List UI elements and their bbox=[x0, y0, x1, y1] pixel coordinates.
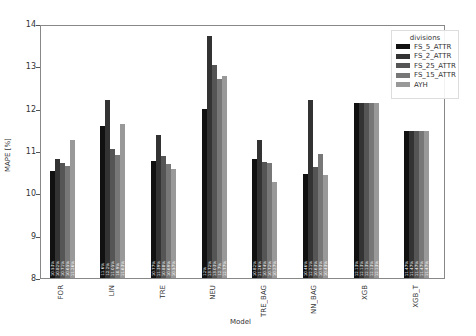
bar bbox=[70, 140, 75, 278]
bar-value-label: 10.57% bbox=[171, 261, 176, 276]
x-tick-label: TRE_BAG bbox=[260, 285, 268, 317]
x-axis-title: Model bbox=[230, 318, 251, 326]
bar bbox=[222, 76, 227, 278]
x-tick-label: XGB_T bbox=[412, 285, 420, 308]
y-tick-label: 8 bbox=[14, 274, 36, 283]
legend-label: FS_5_ATTR bbox=[414, 43, 451, 51]
legend-swatch-icon bbox=[396, 82, 410, 87]
x-tick-label: TRE bbox=[159, 285, 167, 299]
y-tick-mark bbox=[36, 279, 40, 280]
legend-swatch-icon bbox=[396, 73, 410, 78]
legend-label: FS_15_ATTR bbox=[414, 71, 456, 79]
bar bbox=[120, 124, 125, 278]
y-tick-mark bbox=[36, 237, 40, 238]
legend-item: FS_25_ATTR bbox=[396, 61, 458, 71]
y-tick-mark bbox=[36, 67, 40, 68]
y-tick-label: 9 bbox=[14, 232, 36, 241]
y-tick-mark bbox=[36, 152, 40, 153]
legend-label: FS_2_ATTR bbox=[414, 52, 451, 60]
y-tick-mark bbox=[36, 194, 40, 195]
legend-title: divisions bbox=[392, 34, 458, 42]
bar-value-label: 10.27% bbox=[272, 261, 277, 276]
bar-value-label: 11.26% bbox=[70, 261, 75, 276]
bar bbox=[374, 103, 379, 278]
y-tick-label: 13 bbox=[14, 62, 36, 71]
bar-value-label: 12.13% bbox=[374, 261, 379, 276]
legend-item: AYH bbox=[396, 80, 458, 90]
x-tick-label: XGB bbox=[361, 285, 369, 300]
legend-swatch-icon bbox=[396, 63, 410, 68]
y-axis-title: MAPE [%] bbox=[4, 138, 12, 172]
x-tick-label: NN_BAG bbox=[310, 285, 318, 314]
legend-item: FS_15_ATTR bbox=[396, 71, 458, 81]
y-tick-mark bbox=[36, 25, 40, 26]
y-tick-label: 12 bbox=[14, 105, 36, 114]
chart: MAPE [%] 10.53%10.82%10.71%10.65%11.26%1… bbox=[0, 0, 476, 336]
bar-value-label: 11.47% bbox=[424, 261, 429, 276]
bar-value-label: 12.77% bbox=[222, 261, 227, 276]
y-tick-label: 11 bbox=[14, 147, 36, 156]
plot-area: 10.53%10.82%10.71%10.65%11.26%11.6%12.2%… bbox=[40, 25, 445, 279]
legend-swatch-icon bbox=[396, 54, 410, 59]
legend-label: FS_25_ATTR bbox=[414, 62, 456, 70]
y-tick-label: 10 bbox=[14, 189, 36, 198]
legend-item: FS_2_ATTR bbox=[396, 52, 458, 62]
legend: divisions FS_5_ATTRFS_2_ATTRFS_25_ATTRFS… bbox=[391, 30, 459, 99]
legend-item: FS_5_ATTR bbox=[396, 42, 458, 52]
bar bbox=[424, 131, 429, 278]
x-tick-label: FOR bbox=[57, 285, 65, 299]
bar-value-label: 11.63% bbox=[120, 261, 125, 276]
bar-value-label: 10.43% bbox=[323, 261, 328, 276]
y-tick-label: 14 bbox=[14, 20, 36, 29]
x-tick-label: NEU bbox=[209, 285, 217, 300]
y-tick-mark bbox=[36, 110, 40, 111]
legend-swatch-icon bbox=[396, 44, 410, 49]
x-tick-label: LIN bbox=[108, 285, 116, 296]
legend-label: AYH bbox=[414, 81, 428, 89]
